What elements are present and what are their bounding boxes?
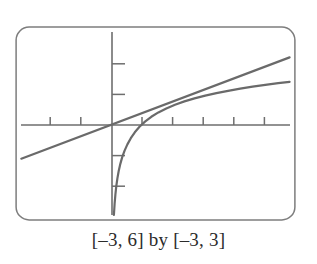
calculator-screen [15, 26, 296, 221]
screen-bezel [16, 27, 295, 220]
figure-container: [–3, 6] by [–3, 3] [0, 0, 317, 264]
graph-svg [15, 26, 296, 221]
window-caption: [–3, 6] by [–3, 3] [0, 228, 317, 252]
